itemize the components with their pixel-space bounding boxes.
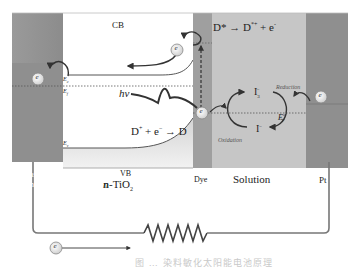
iodide-label: I− (256, 124, 262, 134)
electron-dye-label: e (200, 108, 203, 115)
solution-label: Solution (233, 174, 270, 185)
ec-label: Ec (63, 76, 68, 84)
pt-label: Pt (319, 176, 327, 185)
cb-label: CB (112, 21, 124, 30)
electron-conductor-label: e (36, 74, 39, 81)
electron-cb-label: e (175, 45, 178, 52)
resistor (144, 225, 207, 241)
ev-label: Ev (63, 140, 68, 148)
tio2-label: nn-TiO2 (103, 179, 133, 192)
vb-label: VB (120, 170, 131, 178)
regeneration-equation: D+ + e− → D (131, 125, 187, 137)
dye-region (193, 13, 212, 168)
electron-pt-label: e (319, 92, 322, 99)
transparent-conductor-region (12, 13, 63, 63)
electron-circuit-label: e (54, 243, 57, 250)
ef-label: Ef (63, 88, 68, 96)
transparent-conductor-label: Transparent Conductor (14, 169, 62, 190)
reduction-label: Reduction (276, 84, 300, 90)
triiodide-label: I3− (254, 87, 260, 99)
oxidation-label: Oxidation (218, 137, 242, 143)
redox-potential-label: EoF (278, 113, 284, 123)
pt-region (306, 13, 348, 168)
dye-label: Dye (194, 176, 207, 184)
photon-label: hv (119, 88, 129, 99)
figure-caption: 图 … 染料敏化太阳能电池原理 (135, 256, 273, 269)
excitation-equation: D* → D*+ + e- (213, 21, 276, 33)
